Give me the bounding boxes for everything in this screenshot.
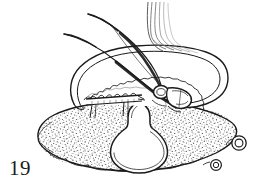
figure-illustration <box>0 0 272 190</box>
figure-plate: 19 <box>0 0 272 190</box>
figure-number-label: 19 <box>9 158 31 179</box>
